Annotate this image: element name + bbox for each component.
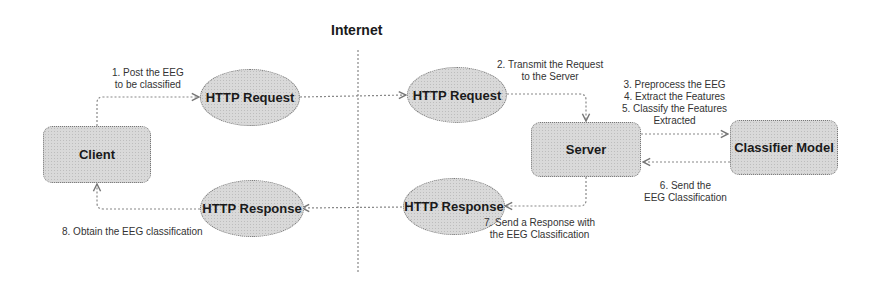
internet-title: Internet (331, 22, 382, 38)
label-step3-5: 3. Preprocess the EEG 4. Extract the Fea… (622, 79, 727, 127)
http-request-right-node: HTTP Request (407, 67, 507, 123)
client-node: Client (43, 126, 151, 183)
label-step8: 8. Obtain the EEG classification (62, 226, 203, 238)
http-response-left-node: HTTP Response (200, 180, 304, 237)
server-node: Server (531, 122, 641, 177)
edge-step1 (97, 97, 199, 126)
edge-request-cross (300, 95, 406, 97)
label-step7: 7. Send a Response with the EEG Classifi… (484, 217, 595, 241)
classifier-model-node: Classifier Model (730, 120, 838, 175)
label-step6: 6. Send the EEG Classification (644, 180, 727, 204)
label-step2: 2. Transmit the Request to the Server (497, 59, 603, 83)
label-step1: 1. Post the EEG to be classified (112, 67, 184, 91)
edge-response-cross (302, 207, 402, 208)
edge-step8 (97, 184, 200, 209)
http-request-left-node: HTTP Request (200, 69, 300, 126)
edge-step7 (505, 177, 586, 206)
edge-step2 (507, 94, 586, 121)
